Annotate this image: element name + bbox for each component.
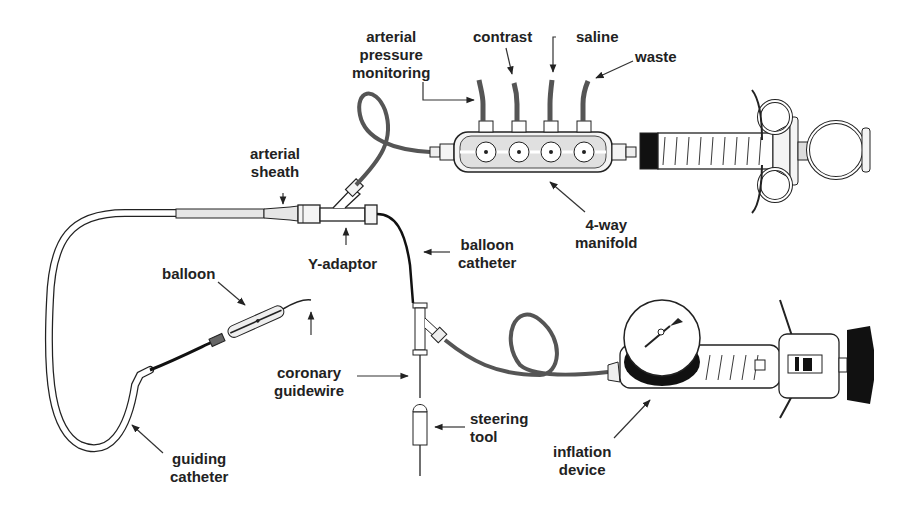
stopcock-4 [574, 142, 594, 162]
label-line: catheter [170, 468, 228, 486]
label-line: arterial [250, 145, 300, 163]
label-line: balloon [162, 265, 215, 283]
label-y-adaptor: Y-adaptor [308, 255, 377, 273]
steering-tool-device [413, 405, 427, 477]
label-line: 4-way [575, 216, 638, 234]
label-line: guiding [170, 450, 228, 468]
manifold-device [430, 80, 636, 172]
pressure-tubing [356, 94, 430, 185]
label-steering-tool: steering tool [470, 410, 528, 446]
label-line: coronary [274, 364, 344, 382]
stopcock-3 [541, 142, 561, 162]
label-line: waste [635, 48, 677, 66]
label-contrast: contrast [473, 28, 532, 46]
label-line: contrast [473, 28, 532, 46]
y-adaptor-device [298, 179, 377, 224]
leader-arrows [132, 37, 650, 453]
label-line: guidewire [274, 382, 344, 400]
label-line: sheath [250, 163, 300, 181]
control-syringe [640, 90, 870, 213]
label-line: device [553, 461, 611, 479]
label-line: inflation [553, 443, 611, 461]
label-line: pressure [352, 46, 430, 64]
label-line: arterial [352, 28, 430, 46]
label-guiding-catheter: guiding catheter [170, 450, 228, 486]
label-line: tool [470, 428, 528, 446]
label-balloon-catheter: balloon catheter [458, 236, 516, 272]
label-line: catheter [458, 254, 516, 272]
label-four-way-manifold: 4-way manifold [575, 216, 638, 252]
label-line: balloon [458, 236, 516, 254]
balloon-catheter-shaft [377, 214, 413, 303]
inflation-tubing [445, 315, 608, 375]
label-waste: waste [635, 48, 677, 66]
label-coronary-guidewire: coronary guidewire [274, 364, 344, 400]
inflation-device-drawing [608, 300, 874, 418]
hemostatic-valve [413, 303, 447, 398]
label-saline: saline [576, 28, 619, 46]
label-line: monitoring [352, 64, 430, 82]
label-line: manifold [575, 234, 638, 252]
label-inflation-device: inflation device [553, 443, 611, 479]
label-balloon: balloon [162, 265, 215, 283]
label-arterial-pressure-monitoring: arterial pressure monitoring [352, 28, 430, 82]
guiding-catheter [49, 206, 298, 448]
stopcock-1 [476, 142, 496, 162]
label-line: Y-adaptor [308, 255, 377, 273]
label-line: steering [470, 410, 528, 428]
label-line: saline [576, 28, 619, 46]
label-arterial-sheath: arterial sheath [250, 145, 300, 181]
stopcock-2 [509, 142, 529, 162]
balloon-assembly [150, 300, 311, 370]
